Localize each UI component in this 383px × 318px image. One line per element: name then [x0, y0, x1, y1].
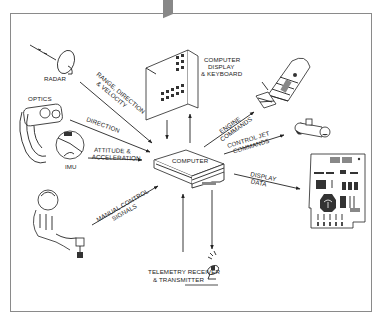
dsky-label-line1: COMPUTER — [204, 56, 241, 63]
astronaut-node — [33, 190, 84, 258]
optics-sextant-icon — [20, 103, 63, 162]
edge-label: ACCELERATION — [92, 153, 141, 162]
rcs-thruster-icon — [295, 119, 330, 137]
spacecraft-node — [256, 58, 310, 108]
edge-label: MANUAL CONTROL — [95, 187, 150, 223]
telemetry-node: TELEMETRY RECEIVER & TRANSMITTER — [148, 251, 220, 285]
rcs-thruster-node — [295, 119, 330, 137]
optics-node: OPTICS — [20, 95, 63, 163]
dsky-label-line3: & KEYBOARD — [201, 70, 243, 77]
edge-manual-computer: MANUAL CONTROL SIGNALS — [92, 186, 158, 229]
imu-label: IMU — [65, 163, 77, 170]
radar-label: RADAR — [44, 75, 67, 82]
telemetry-label-line2: & TRANSMITTER — [153, 276, 204, 283]
dsky-keyboard-icon — [146, 0, 198, 120]
display-panel-node — [309, 154, 365, 228]
telemetry-label-line1: TELEMETRY RECEIVER — [148, 268, 220, 275]
imu-gimbal-icon — [56, 131, 84, 159]
spacecraft-csm-icon — [256, 58, 310, 108]
optics-label: OPTICS — [28, 95, 52, 102]
astronaut-icon — [33, 190, 84, 258]
computer-node: COMPUTER — [154, 150, 224, 188]
edge-computer-display: DISPLAY DATA — [234, 170, 300, 189]
radar-dish-icon — [30, 45, 78, 76]
edge-label: DIRECTION — [86, 115, 121, 134]
computer-label: COMPUTER — [172, 157, 209, 164]
diagram-canvas: RADAR OPTICS IMU — [0, 0, 383, 318]
computer-box-icon — [154, 150, 224, 188]
radar-node: RADAR — [30, 45, 78, 82]
edge-label: RANGE, DIRECTION — [95, 70, 146, 115]
imu-node: IMU — [56, 131, 84, 170]
edge-imu-computer: ATTITUDE & ACCELERATION — [88, 146, 142, 162]
display-panel-icon — [309, 154, 365, 228]
dsky-node: COMPUTER DISPLAY & KEYBOARD — [146, 0, 243, 120]
dsky-label-line2: DISPLAY — [208, 63, 234, 70]
